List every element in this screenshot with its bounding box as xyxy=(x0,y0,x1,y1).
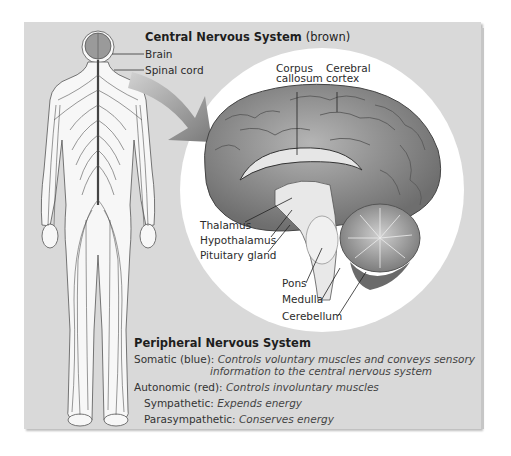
somatic-description-line2: information to the central nervous syste… xyxy=(210,365,432,377)
cns-title-note: (brown) xyxy=(306,30,350,44)
label-pituitary-gland: Pituitary gland xyxy=(200,249,276,261)
parasympathetic-label: Parasympathetic: xyxy=(144,413,236,425)
pns-legend: Peripheral Nervous System Somatic (blue)… xyxy=(134,335,475,427)
autonomic-label: Autonomic (red): xyxy=(134,381,223,393)
pns-parasympathetic: Parasympathetic: Conserves energy xyxy=(134,411,475,427)
pns-sympathetic: Sympathetic: Expends energy xyxy=(134,395,475,411)
label-hypothalamus: Hypothalamus xyxy=(200,234,276,246)
parasympathetic-description: Conserves energy xyxy=(239,413,334,425)
label-thalamus: Thalamus xyxy=(200,219,251,231)
label-cerebral-cortex: Cerebral cortex xyxy=(326,63,371,83)
label-corpus-callosum: Corpus callosum xyxy=(276,63,323,83)
sympathetic-description: Expends energy xyxy=(217,397,302,409)
label-cerebral-cortex-line2: cortex xyxy=(326,73,371,83)
label-pons: Pons xyxy=(282,277,307,289)
label-brain: Brain xyxy=(145,48,173,60)
autonomic-description: Controls involuntary muscles xyxy=(226,381,379,393)
cns-title-text: Central Nervous System xyxy=(145,30,302,44)
label-corpus-callosum-line2: callosum xyxy=(276,73,323,83)
sympathetic-label: Sympathetic: xyxy=(144,397,214,409)
label-cerebellum: Cerebellum xyxy=(282,310,342,322)
pns-title: Peripheral Nervous System xyxy=(134,335,475,351)
somatic-label: Somatic (blue): xyxy=(134,353,214,365)
label-spinal-cord: Spinal cord xyxy=(145,64,204,76)
cns-title: Central Nervous System (brown) xyxy=(145,30,350,44)
pns-autonomic: Autonomic (red): Controls involuntary mu… xyxy=(134,379,475,395)
label-medulla: Medulla xyxy=(282,293,323,305)
